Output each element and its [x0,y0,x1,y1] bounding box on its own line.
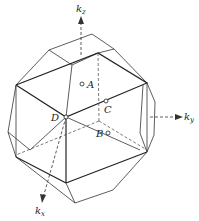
kz-axis [78,16,84,55]
front-square [16,53,147,183]
point-b-marker [106,131,110,135]
ky-label: ky [184,111,195,124]
point-c-label: C [104,104,112,115]
point-c-marker [104,99,108,103]
hidden-edges [16,53,147,155]
kx-label-sub: x [41,210,45,218]
kz-label: kz [76,3,86,16]
polyhedron-diagram: A B C D kz ky kx [0,0,199,221]
kx-axis [40,117,66,203]
ky-label-sub: y [189,116,195,124]
point-d-marker [64,115,68,119]
point-a-marker [80,82,84,86]
top-faces [16,34,147,117]
point-a-label: A [86,79,94,90]
side-faces [8,83,155,203]
point-d-label: D [50,112,59,123]
point-b-label: B [95,128,103,139]
kz-label-sub: z [81,8,86,16]
kx-label: kx [35,205,45,218]
